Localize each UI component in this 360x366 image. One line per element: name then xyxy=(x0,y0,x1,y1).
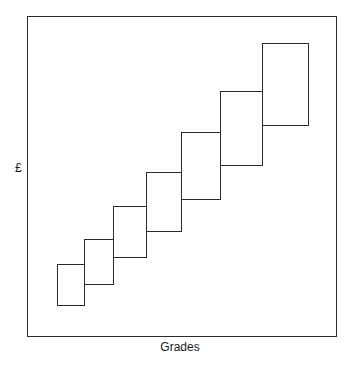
grade-box-5 xyxy=(181,132,221,200)
grade-box-4 xyxy=(146,172,182,232)
x-axis-label: Grades xyxy=(0,340,360,354)
y-axis-label: £ xyxy=(15,161,22,175)
grade-box-2 xyxy=(84,239,114,285)
grade-box-6 xyxy=(220,91,263,166)
grade-box-7 xyxy=(262,43,309,126)
grade-box-1 xyxy=(57,264,85,306)
grade-box-3 xyxy=(113,206,147,258)
